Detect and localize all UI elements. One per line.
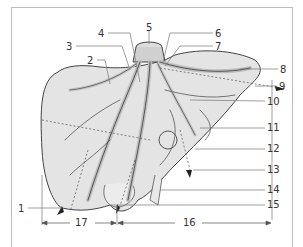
label-6: 6 (215, 29, 221, 39)
label-2: 2 (87, 56, 93, 66)
label-11: 11 (267, 123, 280, 133)
label-13: 13 (267, 165, 280, 175)
label-3: 3 (66, 42, 72, 52)
label-10: 10 (267, 97, 280, 107)
label-5: 5 (146, 23, 152, 33)
label-4: 4 (98, 29, 104, 39)
label-8: 8 (280, 65, 286, 75)
label-15: 15 (267, 200, 280, 210)
label-1: 1 (18, 204, 24, 214)
label-17: 17 (75, 218, 88, 228)
label-14: 14 (267, 185, 280, 195)
label-7: 7 (215, 42, 221, 52)
label-9: 9 (279, 82, 285, 92)
label-12: 12 (267, 144, 280, 154)
label-16: 16 (183, 218, 196, 228)
